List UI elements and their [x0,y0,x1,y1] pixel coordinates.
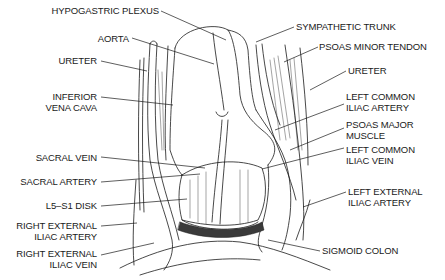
leader-lines [101,11,346,255]
label-ureter-left: URETER [348,65,386,76]
label-psoas-minor-tendon: PSOAS MINOR TENDON [319,41,427,52]
label-right-external-iliac-vein: RIGHT EXTERNAL ILIAC VEIN [16,248,97,270]
anatomy-diagram: HYPOGASTRIC PLEXUS AORTA URETER INFERIOR… [0,0,445,280]
label-sacral-artery: SACRAL ARTERY [20,176,97,187]
label-right-external-iliac-artery: RIGHT EXTERNAL ILIAC ARTERY [16,220,97,242]
label-left-common-iliac-artery: LEFT COMMON ILIAC ARTERY [346,91,415,113]
label-l5-s1-disk: L5–S1 DISK [46,200,97,211]
label-inferior-vena-cava: INFERIOR VENA CAVA [45,91,97,113]
label-psoas-major-muscle: PSOAS MAJOR MUSCLE [346,119,414,141]
label-left-external-iliac-artery: LEFT EXTERNAL ILIAC ARTERY [348,186,423,208]
label-left-common-iliac-vein: LEFT COMMON ILIAC VEIN [346,144,415,166]
label-ureter-right: URETER [59,55,97,66]
label-sacral-vein: SACRAL VEIN [36,152,97,163]
label-hypogastric-plexus: HYPOGASTRIC PLEXUS [52,5,159,16]
label-sympathetic-trunk: SYMPATHETIC TRUNK [296,21,396,32]
label-sigmoid-colon: SIGMOID COLON [322,245,398,256]
label-aorta: AORTA [98,33,129,44]
